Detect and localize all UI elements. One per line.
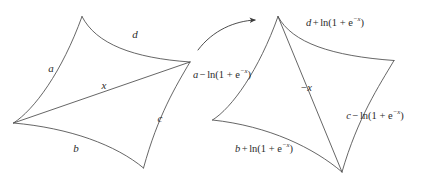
- flip-arrow-curve: [198, 20, 255, 50]
- label-b: b: [73, 143, 79, 154]
- label-x: x: [102, 80, 107, 91]
- label-a-minus-ln: a−ln(1 + e−x): [193, 70, 251, 81]
- label-a: a: [48, 63, 54, 74]
- label-c-minus-ln: c−ln(1 + e−x): [346, 111, 403, 122]
- label-d-plus-op: +: [311, 17, 320, 28]
- left-quadrilateral: [14, 17, 191, 169]
- label-c-minus-argexp: −x: [393, 108, 401, 115]
- left-diagonal-x: [14, 62, 191, 123]
- label-b-plus-argbase: 1 + e: [261, 143, 282, 154]
- left-edge-c: [144, 62, 191, 168]
- label-c-minus-argbase: 1 + e: [372, 110, 393, 121]
- label-c: c: [158, 113, 163, 124]
- label-b-plus-op: +: [240, 143, 249, 154]
- label-d-plus-argbase: 1 + e: [332, 17, 353, 28]
- diagram-svg: [0, 0, 429, 179]
- label-c-minus-fn: ln: [360, 110, 368, 121]
- flip-arrow: [198, 20, 255, 50]
- label-c-minus-var: c: [346, 110, 351, 121]
- label-a-minus-op: −: [198, 69, 207, 80]
- label-d-plus-ln: d+ln(1 + e−x): [306, 18, 364, 29]
- label-d: d: [132, 29, 138, 40]
- label-a-minus-argbase: 1 + e: [219, 69, 240, 80]
- label-b-plus-ln: b+ln(1 + e−x): [235, 144, 293, 155]
- figure-canvas: a d x b c a−ln(1 + e−x) d+ln(1 + e−x) −x…: [0, 0, 429, 179]
- label-c-minus-op: −: [351, 110, 360, 121]
- label-neg-x: −x: [300, 83, 312, 94]
